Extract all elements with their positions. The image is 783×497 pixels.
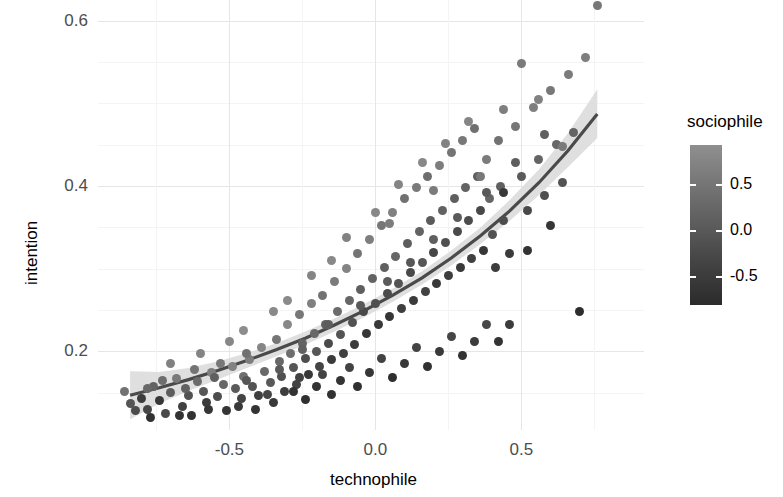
data-point (415, 227, 424, 236)
data-point (348, 318, 357, 327)
y-tick-label: 0.4 (28, 176, 88, 196)
data-point (412, 343, 421, 352)
data-point (380, 263, 389, 272)
x-tick-label: 0.5 (491, 440, 551, 460)
data-point (216, 359, 225, 368)
chart-root: 0.20.40.6 -0.50.00.5 intention technophi… (0, 0, 783, 497)
data-point (453, 227, 462, 236)
legend-tick-mark (716, 276, 722, 278)
data-point (371, 208, 380, 217)
legend-tick-label: -0.5 (730, 267, 758, 285)
data-point (342, 233, 351, 242)
data-point (286, 349, 295, 358)
data-point (488, 230, 497, 239)
data-point (120, 387, 129, 396)
data-point (377, 221, 386, 230)
data-point (196, 349, 205, 358)
data-point (225, 337, 234, 346)
y-axis-title: intention (22, 221, 42, 285)
data-point (523, 246, 532, 255)
data-point (453, 213, 462, 222)
plot-panel (98, 0, 644, 430)
data-point (529, 103, 538, 112)
data-point (441, 139, 450, 148)
data-point (383, 289, 392, 298)
data-point (307, 299, 316, 308)
data-point (310, 329, 319, 338)
data-point (342, 264, 351, 273)
data-point (280, 387, 289, 396)
data-point (491, 263, 500, 272)
data-point (275, 365, 284, 374)
data-point (558, 178, 567, 187)
data-point (406, 258, 415, 267)
data-point (371, 299, 380, 308)
data-point (517, 59, 526, 68)
data-point (272, 335, 281, 344)
data-point (193, 377, 202, 386)
data-point (429, 248, 438, 257)
legend-tick-mark (690, 276, 696, 278)
data-point (307, 271, 316, 280)
data-point (494, 337, 503, 346)
data-point (327, 256, 336, 265)
data-point (564, 70, 573, 79)
data-point (260, 367, 269, 376)
x-axis-title: technophile (330, 470, 417, 490)
legend-title: sociophile (687, 112, 763, 132)
data-point (511, 122, 520, 131)
data-point (450, 194, 459, 203)
data-point (418, 258, 427, 267)
data-point (421, 287, 430, 296)
data-point (429, 186, 438, 195)
data-point (228, 362, 237, 371)
data-point (418, 158, 427, 167)
data-point (251, 405, 260, 414)
legend-tick-label: 0.5 (730, 175, 752, 193)
data-point (517, 172, 526, 181)
legend-colorbar (690, 145, 722, 305)
data-point (242, 349, 251, 358)
data-point (345, 296, 354, 305)
data-point (482, 155, 491, 164)
data-point (318, 291, 327, 300)
data-point (257, 343, 266, 352)
x-tick-label: 0.0 (345, 440, 405, 460)
legend-tick-label: 0.0 (730, 221, 752, 239)
data-point (301, 395, 310, 404)
legend-tick-mark (690, 230, 696, 232)
data-point (470, 124, 479, 133)
data-point (263, 390, 272, 399)
data-point (447, 332, 456, 341)
data-point (304, 370, 313, 379)
data-point (456, 263, 465, 272)
y-tick-label: 0.2 (28, 341, 88, 361)
data-point (190, 365, 199, 374)
data-point (435, 161, 444, 170)
data-point (339, 349, 348, 358)
data-point (336, 376, 345, 385)
y-tick-label: 0.6 (28, 11, 88, 31)
data-point (327, 390, 336, 399)
x-tick-label: -0.5 (199, 440, 259, 460)
data-point (269, 398, 278, 407)
data-point (377, 354, 386, 363)
legend-tick-mark (690, 184, 696, 186)
data-point (400, 194, 409, 203)
data-point (199, 387, 208, 396)
data-point (558, 142, 567, 151)
data-point (482, 188, 491, 197)
data-point (269, 307, 278, 316)
data-point (234, 402, 243, 411)
data-point (289, 387, 298, 396)
data-point (158, 376, 167, 385)
data-point (435, 347, 444, 356)
data-point (365, 368, 374, 377)
data-point (161, 409, 170, 418)
data-point (155, 396, 164, 405)
data-point (409, 296, 418, 305)
data-point (593, 1, 602, 10)
data-point (301, 354, 310, 363)
data-point (383, 277, 392, 286)
data-point (479, 246, 488, 255)
